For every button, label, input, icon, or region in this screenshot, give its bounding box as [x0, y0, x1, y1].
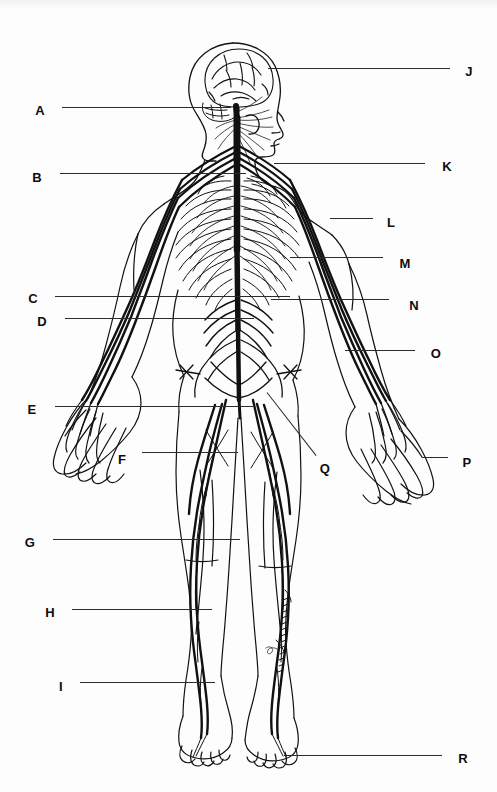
leader-line-k — [274, 163, 425, 164]
leader-line-l — [330, 218, 373, 219]
brain-cerebrum — [205, 49, 273, 107]
leader-line-d — [65, 318, 254, 319]
label-h[interactable]: H — [45, 606, 55, 619]
label-q[interactable]: Q — [320, 462, 330, 475]
label-o[interactable]: O — [431, 347, 441, 360]
label-d[interactable]: D — [37, 315, 47, 328]
label-f[interactable]: F — [118, 453, 126, 466]
leader-line-g — [53, 539, 240, 540]
label-a[interactable]: A — [35, 104, 45, 117]
leader-line-n — [271, 299, 389, 300]
leader-line-o — [345, 350, 415, 351]
label-i[interactable]: I — [59, 680, 63, 693]
leader-line-c — [55, 296, 290, 297]
left-arm-nerves — [82, 180, 182, 404]
leader-line-b — [60, 173, 246, 174]
leader-line-a — [62, 107, 231, 108]
leader-line-j — [268, 68, 450, 69]
label-e[interactable]: E — [28, 403, 37, 416]
leader-line-i — [80, 682, 215, 683]
leader-line-r — [284, 755, 442, 756]
label-g[interactable]: G — [25, 536, 35, 549]
leader-line-p — [422, 457, 448, 458]
label-r[interactable]: R — [458, 752, 468, 765]
label-b[interactable]: B — [32, 171, 42, 184]
worksheet-page: ABCDEFGHIJKLMNOPQR — [0, 0, 497, 792]
label-n[interactable]: N — [409, 299, 419, 312]
left-arm-outline — [53, 232, 178, 484]
leader-line-m — [290, 257, 383, 258]
label-m[interactable]: M — [399, 257, 410, 270]
leader-line-f — [142, 452, 238, 453]
nervous-system-figure — [0, 0, 497, 792]
leader-line-e — [55, 406, 253, 407]
leader-line-h — [72, 609, 212, 610]
label-j[interactable]: J — [465, 65, 472, 78]
label-k[interactable]: K — [442, 160, 452, 173]
label-l[interactable]: L — [387, 216, 395, 229]
label-p[interactable]: P — [463, 456, 472, 469]
label-c[interactable]: C — [28, 292, 38, 305]
